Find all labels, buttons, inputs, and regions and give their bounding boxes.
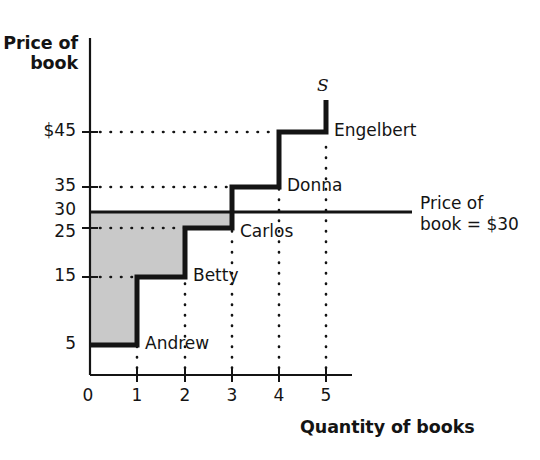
supply-curve-figure: Price ofbook Quantity of books $45 35 30… — [0, 0, 540, 460]
seller-label-engelbert: Engelbert — [334, 121, 416, 140]
x-tick-label-1: 1 — [119, 386, 155, 405]
x-tick-label-2: 2 — [167, 386, 203, 405]
price-line-label: Price ofbook = $30 — [420, 193, 519, 234]
x-tick-label-4: 4 — [261, 386, 297, 405]
x-tick-label-0: 0 — [70, 386, 106, 405]
y-axis-title-line1: Price of — [3, 33, 78, 53]
x-axis-title: Quantity of books — [300, 418, 475, 438]
price-line-label-line1: Price of — [420, 193, 483, 213]
y-axis-title-line2: book — [30, 53, 78, 73]
x-tick-label-3: 3 — [214, 386, 250, 405]
supply-curve-label: S — [317, 76, 329, 95]
x-tick-label-5: 5 — [308, 386, 344, 405]
y-axis-title: Price ofbook — [0, 34, 78, 73]
seller-label-donna: Donna — [287, 176, 342, 195]
y-tick-label-15: 15 — [18, 266, 76, 285]
y-tick-label-45: $45 — [18, 121, 76, 140]
seller-label-carlos: Carlos — [240, 222, 293, 241]
y-tick-label-5: 5 — [18, 334, 76, 353]
y-tick-label-30: 30 — [18, 200, 76, 219]
y-tick-label-25: 25 — [18, 222, 76, 241]
seller-label-andrew: Andrew — [145, 334, 209, 353]
price-line-label-line2: book = $30 — [420, 214, 519, 234]
seller-label-betty: Betty — [193, 266, 239, 285]
y-tick-label-35: 35 — [18, 176, 76, 195]
